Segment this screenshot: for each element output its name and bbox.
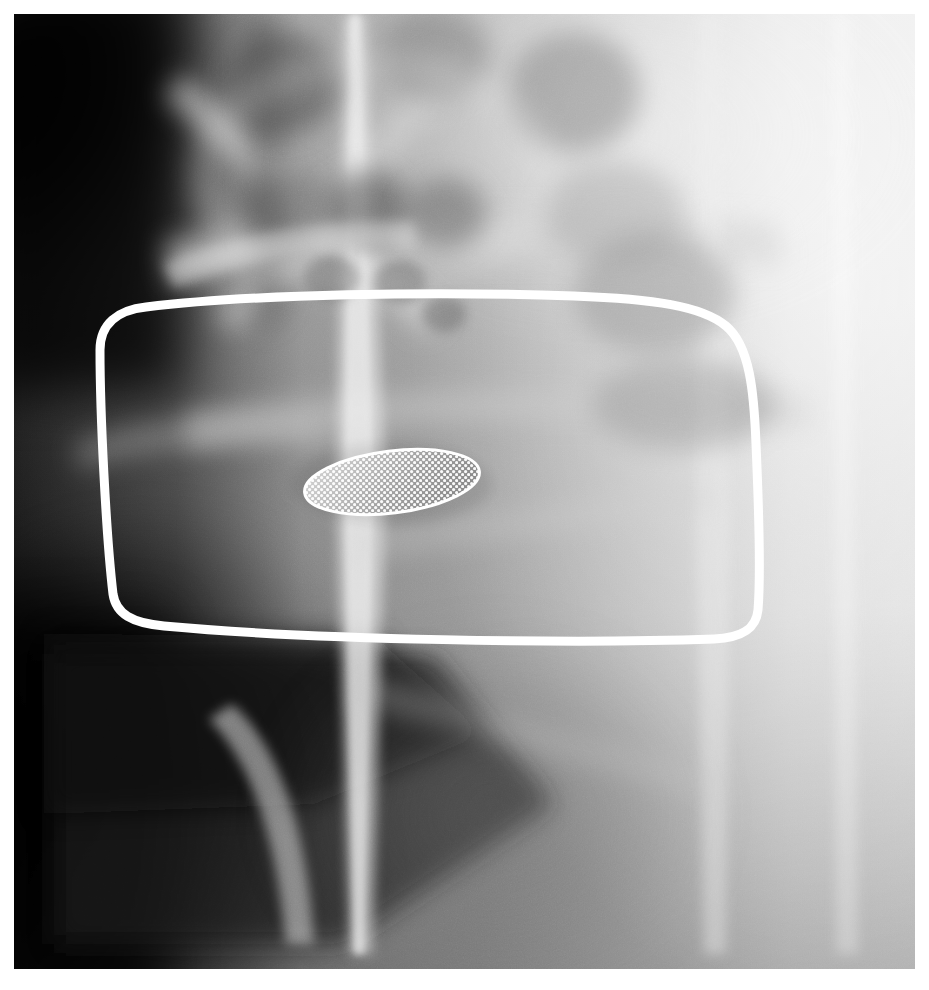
radiograph-film <box>14 14 915 969</box>
radiograph-canvas <box>14 14 915 969</box>
radiograph-page <box>0 0 929 990</box>
